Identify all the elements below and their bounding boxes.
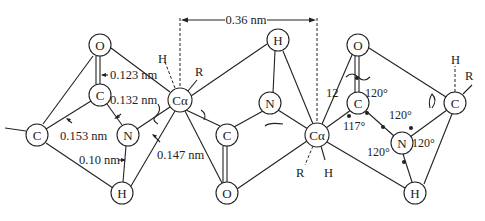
pointer-arrows bbox=[66, 73, 160, 162]
svg-text:C: C bbox=[33, 128, 42, 143]
atom-o1: O bbox=[89, 34, 111, 56]
atom-c1: C bbox=[89, 84, 111, 106]
label-ca2-r: R bbox=[296, 166, 305, 180]
svg-text:N: N bbox=[265, 96, 275, 111]
atom-o3: O bbox=[347, 34, 369, 56]
angle-label-4: 120° bbox=[367, 145, 390, 159]
svg-text:N: N bbox=[397, 136, 407, 151]
svg-text:H: H bbox=[273, 33, 282, 48]
plane-2-outline bbox=[185, 44, 313, 189]
atom-c0: C bbox=[26, 124, 48, 146]
svg-text:H: H bbox=[410, 186, 419, 201]
atom-n1: N bbox=[117, 124, 139, 146]
svg-text:C: C bbox=[223, 128, 232, 143]
svg-text:C: C bbox=[451, 96, 460, 111]
angle-label-2: 117° bbox=[343, 119, 366, 133]
label-c-o: 0.123 nm bbox=[110, 68, 158, 82]
svg-text:N: N bbox=[123, 128, 133, 143]
atom-n3: N bbox=[391, 132, 413, 154]
label-partial-12: 12 bbox=[326, 86, 339, 100]
atom-h1: H bbox=[111, 182, 133, 204]
label-c-n: 0.132 nm bbox=[110, 93, 158, 107]
label-ca1-h: H bbox=[158, 52, 167, 66]
label-n-h: 0.10 nm bbox=[79, 153, 120, 167]
peptide-diagram: 0.36 nm O C C N H Cα H bbox=[0, 0, 485, 221]
label-ca2-h: H bbox=[324, 166, 333, 180]
repeat-length-label: 0.36 nm bbox=[226, 13, 267, 27]
svg-text:Cα: Cα bbox=[172, 93, 188, 108]
label-c-c: 0.153 nm bbox=[60, 129, 108, 143]
angle-label-5: 120° bbox=[412, 136, 435, 150]
atom-n2: N bbox=[259, 92, 281, 114]
atom-c2: C bbox=[216, 124, 238, 146]
label-c4-r: R bbox=[465, 69, 474, 83]
atom-h3: H bbox=[404, 182, 426, 204]
atom-o2: O bbox=[216, 182, 238, 204]
svg-text:H: H bbox=[117, 186, 126, 201]
svg-text:C: C bbox=[354, 96, 363, 111]
angle-label-1: 120° bbox=[365, 86, 388, 100]
dimension-arrow: 0.36 nm bbox=[181, 13, 316, 27]
label-c4-h: H bbox=[451, 53, 460, 67]
atom-ca2: Cα bbox=[305, 123, 329, 147]
atom-c4: C bbox=[444, 92, 466, 114]
svg-text:O: O bbox=[222, 186, 231, 201]
bond-length-labels: 0.123 nm 0.132 nm 0.153 nm 0.10 nm 0.147… bbox=[60, 68, 205, 167]
angle-label-3: 120° bbox=[389, 108, 412, 122]
label-ca1-r: R bbox=[195, 65, 204, 79]
svg-text:O: O bbox=[353, 38, 362, 53]
atom-h2: H bbox=[267, 29, 289, 51]
svg-text:C: C bbox=[96, 88, 105, 103]
label-n-ca: 0.147 nm bbox=[157, 148, 205, 162]
svg-text:Cα: Cα bbox=[309, 128, 325, 143]
svg-text:O: O bbox=[95, 38, 104, 53]
plane-3-outline bbox=[322, 48, 452, 188]
atom-ca1: Cα bbox=[168, 88, 192, 112]
